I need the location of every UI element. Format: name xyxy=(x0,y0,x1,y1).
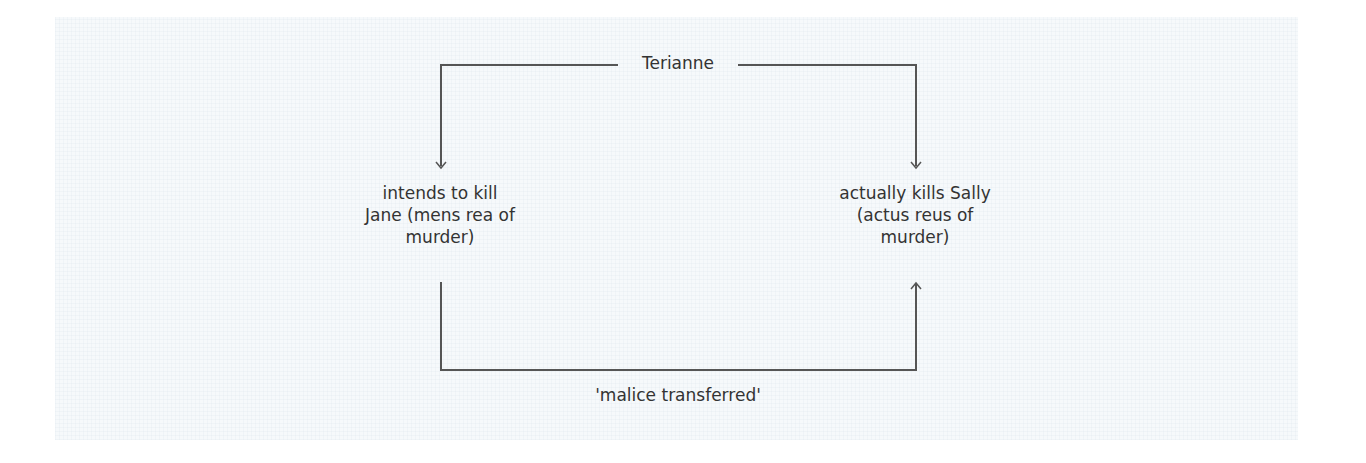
top-left-vertical xyxy=(440,64,442,166)
right-node: actually kills Sally (actus reus of murd… xyxy=(805,182,1025,248)
right-node-line-1: actually kills Sally xyxy=(805,182,1025,204)
top-right-vertical xyxy=(915,64,917,166)
top-label: Terianne xyxy=(618,52,738,74)
bottom-right-vertical xyxy=(915,284,917,370)
bottom-label: 'malice transferred' xyxy=(528,384,828,406)
left-node-line-1: intends to kill xyxy=(330,182,550,204)
arrow-down-right-icon xyxy=(909,160,923,170)
diagram-panel xyxy=(55,17,1298,440)
left-node-line-2: Jane (mens rea of xyxy=(330,204,550,226)
left-node-line-3: murder) xyxy=(330,226,550,248)
arrow-up-right-icon xyxy=(909,281,923,291)
top-connector-left xyxy=(440,64,618,66)
bottom-connector xyxy=(440,369,917,371)
right-node-line-2: (actus reus of xyxy=(805,204,1025,226)
bottom-left-vertical xyxy=(440,282,442,370)
top-connector-right xyxy=(738,64,916,66)
right-node-line-3: murder) xyxy=(805,226,1025,248)
left-node: intends to kill Jane (mens rea of murder… xyxy=(330,182,550,248)
arrow-down-left-icon xyxy=(434,160,448,170)
